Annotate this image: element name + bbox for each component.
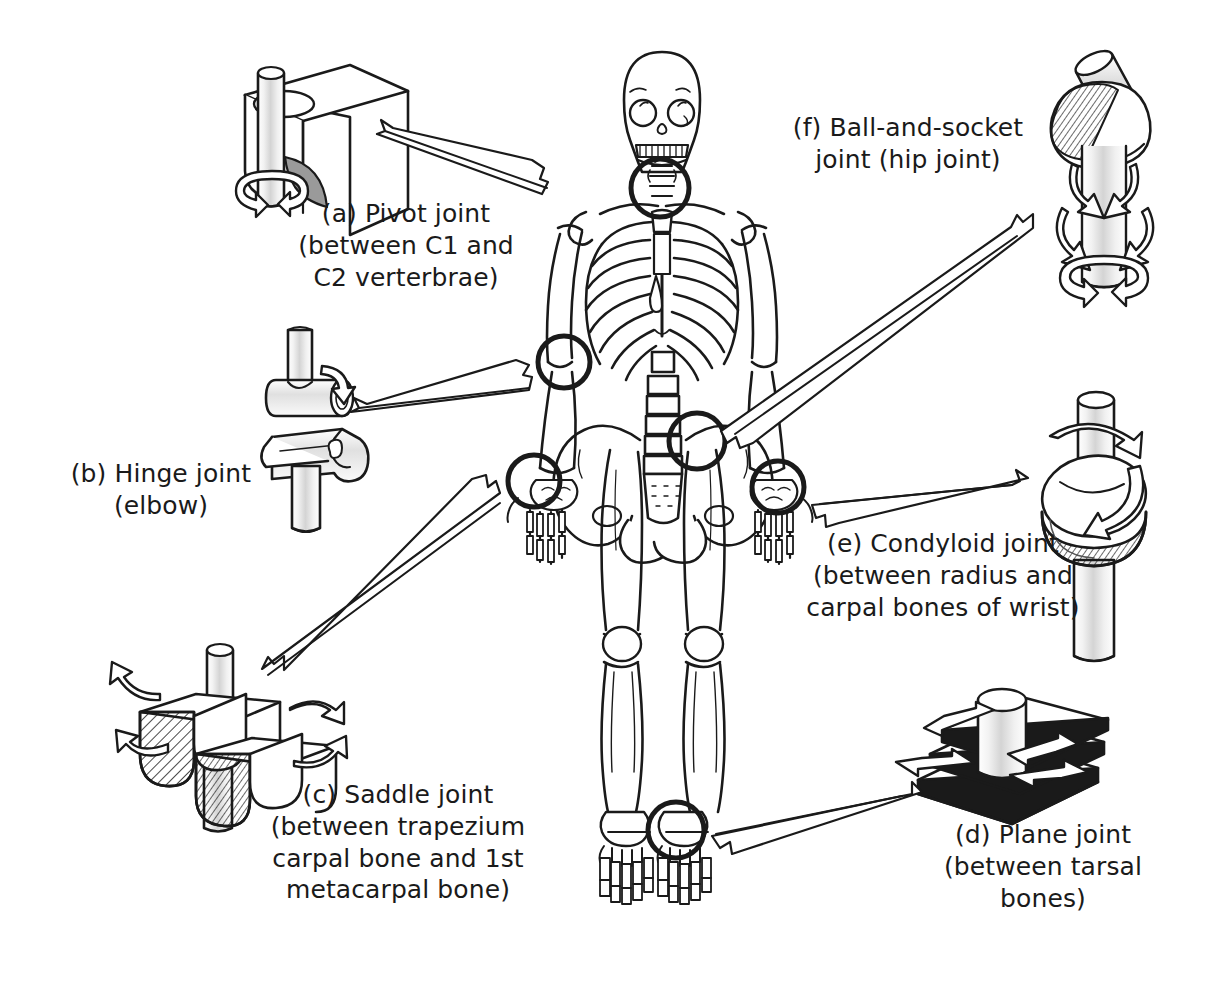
ball-and-socket-joint-model [721,46,1153,448]
joint-types-figure: (a) Pivot joint (between C1 and C2 verte… [0,0,1218,989]
label-hinge-joint: (b) Hinge joint (elbow) [46,458,276,522]
label-condyloid-joint: (e) Condyloid joint (between radius and … [798,528,1088,623]
skeleton-figure [508,52,813,904]
cervical-spine [648,160,676,197]
elbow-highlight [538,336,590,388]
skull [624,52,700,172]
label-ball-and-socket-joint: (f) Ball-and-socket joint (hip joint) [768,112,1048,176]
label-pivot-joint: (a) Pivot joint (between C1 and C2 verte… [286,198,526,293]
lumbar-spine [644,352,682,474]
hinge-joint-model [261,327,532,532]
label-plane-joint: (d) Plane joint (between tarsal bones) [898,819,1188,914]
label-saddle-joint: (c) Saddle joint (between trapezium carp… [248,779,548,906]
